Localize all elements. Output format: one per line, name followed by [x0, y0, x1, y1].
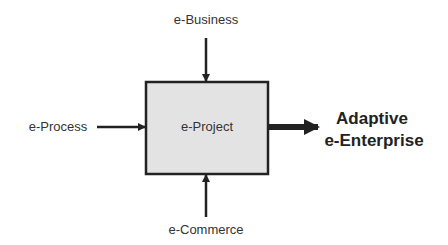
e-enterprise-label: e-Enterprise: [324, 131, 423, 150]
e-business-label: e-Business: [174, 12, 239, 27]
e-commerce-label: e-Commerce: [168, 222, 243, 237]
adaptive-label: Adaptive: [336, 109, 408, 128]
e-process-label: e-Process: [29, 119, 88, 134]
e-project-label: e-Project: [181, 119, 233, 134]
idef0-diagram: e-Project e-Business e-Process e-Commerc…: [0, 0, 448, 245]
